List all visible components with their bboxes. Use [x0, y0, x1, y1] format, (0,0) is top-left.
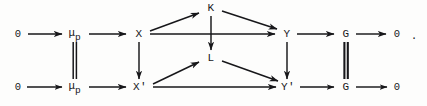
node-zero-top-left: 0: [15, 29, 22, 40]
edge-X-to-K: [150, 13, 199, 31]
node-mu-p-bottom: μp: [69, 81, 82, 92]
edge-K-to-Y: [222, 11, 277, 29]
node-K: K: [208, 3, 215, 14]
mu-subscript-bottom: p: [75, 85, 81, 96]
edge-Xprime-to-L: [153, 62, 199, 84]
node-G-bottom: G: [343, 82, 350, 93]
node-G-top: G: [343, 29, 350, 40]
mu-subscript-top: p: [75, 32, 81, 43]
node-zero-bottom-left: 0: [15, 82, 22, 93]
node-Y: Y: [284, 29, 291, 40]
node-mu-p-top: μp: [69, 28, 82, 39]
node-X: X: [136, 29, 143, 40]
node-Y-prime: Y': [281, 82, 295, 93]
node-L: L: [208, 53, 215, 64]
commutative-diagram: 0 μp X K Y G 0 0 μp X' L Y' G 0 .: [0, 0, 427, 106]
trailing-period: .: [411, 30, 418, 42]
node-zero-bottom-right: 0: [394, 82, 401, 93]
edge-L-to-Yprime: [222, 61, 278, 81]
node-X-prime: X': [133, 82, 147, 93]
node-zero-top-right: 0: [394, 29, 401, 40]
